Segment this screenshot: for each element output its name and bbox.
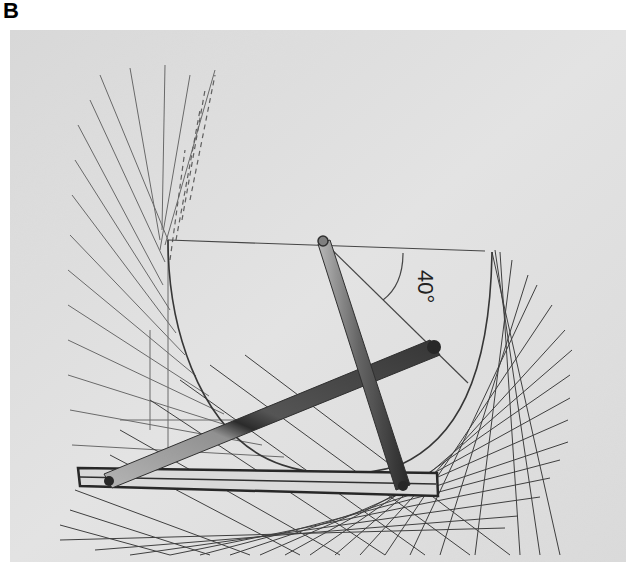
linkage-drawing — [10, 30, 626, 562]
angle-label: 40° — [412, 270, 438, 303]
photo-grain — [10, 30, 626, 562]
linkage-photo: 40° — [10, 30, 626, 562]
panel-label: B — [3, 0, 19, 24]
